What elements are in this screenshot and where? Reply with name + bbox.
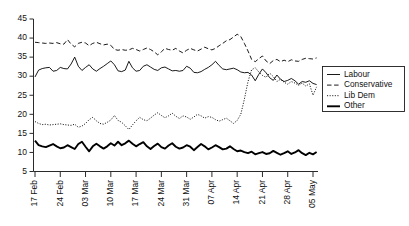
series-line-lib-dem [35, 68, 317, 130]
y-tick-label: 10 [18, 147, 28, 157]
y-tick-label: 5 [22, 166, 27, 176]
y-tick-label: 15 [18, 128, 28, 138]
legend-label-labour: Labour [344, 69, 370, 79]
x-axis-group: 17 Feb24 Feb03 Mar10 Mar17 Mar24 Mar31 M… [29, 172, 318, 208]
x-tick-label: 03 Mar [80, 180, 90, 207]
y-tick-label: 45 [18, 13, 28, 23]
chart-root: 51015202530354045 17 Feb24 Feb03 Mar10 M… [0, 0, 409, 226]
x-tick-label: 05 May [307, 179, 317, 208]
legend-label-conservative: Conservative [344, 79, 393, 89]
x-tick-label: 17 Feb [29, 180, 39, 207]
x-tick-label: 14 Apr [231, 180, 241, 205]
x-tick-label: 28 Apr [282, 180, 292, 205]
legend-label-lib-dem: Lib Dem [344, 90, 375, 100]
x-tick-label: 24 Mar [156, 180, 166, 207]
x-tick-label: 17 Mar [130, 180, 140, 207]
y-tick-label: 20 [18, 109, 28, 119]
x-tick-label: 24 Feb [55, 180, 65, 207]
y-tick-label: 35 [18, 51, 28, 61]
legend-label-other: Other [344, 100, 365, 110]
y-tick-label: 40 [18, 32, 28, 42]
x-tick-label: 21 Apr [257, 180, 267, 205]
polling-line-chart: 51015202530354045 17 Feb24 Feb03 Mar10 M… [0, 0, 409, 226]
series-line-labour [35, 57, 317, 84]
y-tick-label: 30 [18, 70, 28, 80]
series-line-other [35, 141, 317, 155]
x-tick-label: 10 Mar [105, 180, 115, 207]
series-line-conservative [35, 34, 317, 63]
series-group [35, 34, 317, 155]
y-tick-label: 25 [18, 90, 28, 100]
y-tick-group: 51015202530354045 [18, 13, 34, 176]
chart-legend: LabourConservativeLib DemOther [323, 67, 405, 112]
y-axis-group: 51015202530354045 [18, 13, 34, 176]
x-tick-label: 31 Mar [181, 180, 191, 207]
x-tick-label: 07 Apr [206, 180, 216, 205]
x-tick-group: 17 Feb24 Feb03 Mar10 Mar17 Mar24 Mar31 M… [29, 172, 317, 208]
